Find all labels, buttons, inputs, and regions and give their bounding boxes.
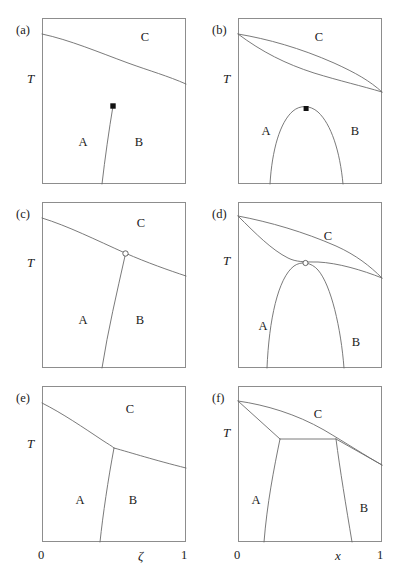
panel-e-solvus-left [42,403,114,448]
panel-c-plot: C A B [42,202,186,368]
right-axis-tick-max: 1 [377,549,383,562]
panel-b-region-c: C [315,30,323,44]
panel-d-miscibility-dome [267,263,344,368]
panel-b-tag: (b) [212,24,227,37]
panel-f-yaxis-label: T [223,426,230,439]
right-axis-label: x [335,549,341,562]
right-axis-tick-min: 0 [234,549,240,562]
panel-a-region-c: C [141,30,149,44]
panel-c-region-c: C [137,216,145,230]
panel-b-frame [239,19,382,184]
phase-diagram-figure: C A B (a) T C A B (b) T C A B ( [0,0,399,573]
panel-a-region-b: B [135,135,143,149]
panel-d-region-b: B [352,335,360,349]
panel-e-yaxis-label: T [27,437,34,450]
panel-a-solvus [42,34,186,84]
panel-f-solvus-left [264,439,280,542]
panel-e: C A B [42,386,186,542]
panel-e-solvus-right [114,448,186,468]
panel-a-plot: C A B [42,18,186,184]
panel-d-region-a: A [258,319,267,333]
panel-c-region-b: B [136,313,144,327]
panel-b-yaxis-label: T [223,72,230,85]
panel-a-ab-boundary [102,106,113,184]
panel-e-region-c: C [126,402,134,416]
panel-f-tag: (f) [212,392,225,405]
panel-f-solvus-right [336,439,352,542]
panel-c-critical-point [123,251,128,256]
panel-b: C A B [238,18,382,184]
panel-f: C A B [238,386,382,542]
panel-d-solidus [238,216,382,278]
panel-c-frame [43,203,186,368]
panel-b-region-b: B [351,124,359,138]
panel-b-miscibility-dome [270,107,343,184]
left-axis-label: ζ [138,549,143,562]
panel-e-ab-boundary [100,448,114,542]
panel-d-region-c: C [324,229,332,243]
panel-f-frame [239,387,382,542]
panel-a-tag: (a) [16,24,30,37]
panel-c-yaxis-label: T [27,256,34,269]
panel-e-region-b: B [129,493,137,507]
panel-b-plot: C A B [238,18,382,184]
panel-a: C A B [42,18,186,184]
panel-b-region-a: A [261,124,270,138]
panel-f-solidus-left [238,401,280,439]
panel-b-solidus [238,34,382,92]
panel-b-liquidus [238,34,382,92]
panel-c-solvus [42,218,186,276]
panel-f-region-a: A [251,493,260,507]
panel-d-plot: C A B [238,202,382,368]
panel-e-region-a: A [75,493,84,507]
panel-d-critical-point [303,260,308,265]
left-axis-tick-max: 1 [181,549,187,562]
panel-a-yaxis-label: T [27,72,34,85]
panel-d-yaxis-label: T [223,254,230,267]
panel-b-critical-point [304,106,309,111]
panel-f-plot: C A B [238,386,382,542]
panel-c-tag: (c) [16,208,30,221]
panel-c-region-a: A [78,313,87,327]
panel-f-region-c: C [314,407,322,421]
panel-e-plot: C A B [42,386,186,542]
panel-a-region-a: A [78,135,87,149]
panel-d-liquidus [238,216,382,278]
panel-c-ab-boundary [102,256,125,368]
panel-a-frame [43,19,186,184]
panel-a-critical-point [110,103,115,108]
panel-e-tag: (e) [16,392,30,405]
panel-c: C A B [42,202,186,368]
left-axis-tick-min: 0 [38,549,44,562]
panel-f-liquidus [238,401,382,465]
panel-d-tag: (d) [212,208,227,221]
panel-f-region-b: B [360,501,368,515]
panel-f-solidus-right [336,439,382,465]
panel-d: C A B [238,202,382,368]
panel-e-frame [43,387,186,542]
